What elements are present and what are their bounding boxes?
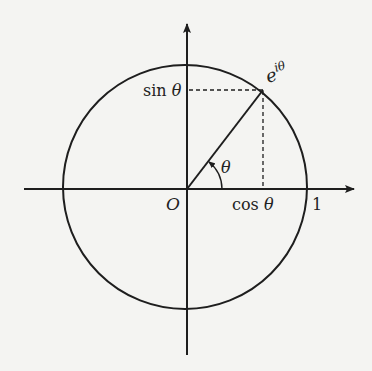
sin-prefix: sin (143, 81, 172, 100)
unit-label: 1 (312, 195, 322, 214)
origin-label: O (166, 194, 180, 214)
sin-label: sin θ (143, 81, 182, 100)
point-label: eiθ (262, 58, 291, 87)
sin-theta: θ (172, 81, 182, 100)
cos-label: cos θ (232, 195, 274, 214)
cos-theta: θ (264, 195, 274, 214)
cos-prefix: cos (232, 195, 264, 214)
unit-circle (63, 65, 307, 309)
unit-circle-diagram: O cos θ 1 sin θ eiθ θ (0, 0, 372, 371)
angle-label: θ (221, 158, 231, 177)
